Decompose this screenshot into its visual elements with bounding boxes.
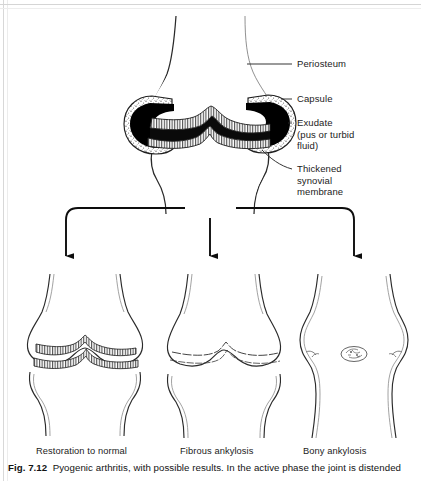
label-thickened-synovial-membrane: Thickened synovial membrane: [297, 163, 343, 198]
figure-page: Periosteum Capsule Exudate (pus or turbi…: [0, 0, 421, 481]
outcome-fibrous-ankylosis: [167, 274, 280, 438]
figure-caption-text: Pyogenic arthritis, with possible result…: [53, 462, 401, 473]
figure-artwork: [0, 0, 421, 481]
arrow-to-restoration: [66, 208, 185, 256]
figure-number: Fig. 7.12: [8, 462, 47, 473]
bony-fusion-remnant: [341, 347, 367, 362]
arrow-to-bony: [236, 208, 354, 256]
figure-caption: Fig. 7.12 Pyogenic arthritis, with possi…: [8, 462, 420, 473]
outcome-arrows: [66, 208, 354, 256]
label-capsule: Capsule: [297, 93, 333, 105]
main-joint-illustration: [124, 16, 296, 214]
outcome-bony-ankylosis: [300, 274, 408, 438]
label-exudate: Exudate (pus or turbid fluid): [297, 117, 354, 152]
caption-fibrous-ankylosis: Fibrous ankylosis: [180, 446, 254, 456]
outcome-restoration-to-normal: [28, 274, 143, 436]
label-periosteum: Periosteum: [297, 58, 346, 70]
caption-bony-ankylosis: Bony ankylosis: [303, 446, 366, 456]
caption-restoration-to-normal: Restoration to normal: [36, 446, 127, 456]
